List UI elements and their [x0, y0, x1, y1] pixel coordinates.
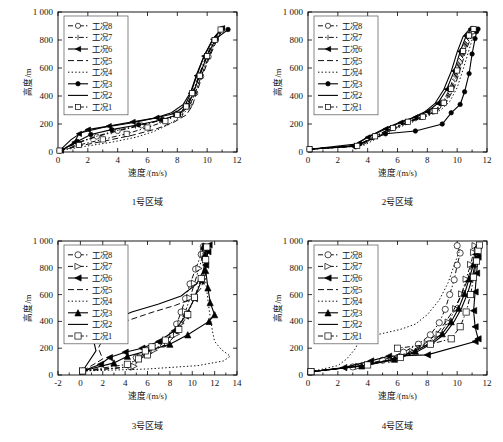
x-tick-label: 10 — [203, 155, 213, 165]
x-tick-label: 12 — [210, 378, 219, 388]
y-tick-label: 0 — [299, 370, 304, 380]
x-tick-label: 8 — [168, 378, 173, 388]
x-tick-label: 6 — [395, 155, 400, 165]
panel-2: 02468101202004006008001 000速度/(m/s)高度/m工… — [252, 0, 503, 215]
chart-svg: 02468101202004006008001 000速度/(m/s)高度/m工… — [252, 215, 503, 442]
x-tick-label: 0 — [78, 378, 83, 388]
y-tick-label: 800 — [40, 263, 54, 273]
legend-label[interactable]: 工况3 — [92, 309, 112, 318]
legend-label[interactable]: 工况3 — [342, 309, 362, 318]
legend-label[interactable]: 工况7 — [92, 262, 112, 271]
legend-label[interactable]: 工况5 — [92, 286, 112, 295]
y-tick-label: 200 — [40, 119, 54, 129]
legend-label[interactable]: 工况7 — [342, 33, 362, 42]
y-tick-label: 400 — [290, 316, 304, 326]
legend-label[interactable]: 工况6 — [342, 274, 362, 283]
x-tick-label: 0 — [306, 155, 311, 165]
panel-3: -20246810121402004006008001 000速度/(m/s)高… — [0, 215, 252, 442]
x-tick-label: 4 — [365, 155, 370, 165]
x-tick-label: 8 — [425, 378, 430, 388]
x-axis-title: 速度/(m/s) — [378, 167, 417, 178]
x-axis-title: 速度/(m/s) — [378, 390, 417, 401]
y-tick-label: 1 000 — [33, 236, 54, 246]
legend-label[interactable]: 工况8 — [342, 22, 362, 31]
y-tick-label: 200 — [40, 343, 54, 353]
legend-label[interactable]: 工况4 — [92, 297, 113, 306]
x-tick-label: 12 — [483, 155, 492, 165]
y-tick-label: 0 — [49, 147, 54, 157]
legend-label[interactable]: 工况2 — [92, 320, 112, 329]
legend-label[interactable]: 工况5 — [92, 57, 112, 66]
panel-subtitle: 3号区域 — [132, 420, 164, 431]
legend-label[interactable]: 工况3 — [342, 80, 362, 89]
x-tick-label: 2 — [336, 378, 341, 388]
y-tick-label: 400 — [290, 91, 304, 101]
x-tick-label: 4 — [365, 378, 370, 388]
legend-label[interactable]: 工况4 — [342, 68, 363, 77]
legend-label[interactable]: 工况8 — [92, 22, 112, 31]
y-tick-label: 600 — [40, 63, 54, 73]
panel-subtitle: 4号区域 — [382, 420, 414, 431]
x-tick-label: -2 — [54, 378, 62, 388]
y-tick-label: 400 — [40, 91, 54, 101]
x-tick-label: 6 — [395, 378, 400, 388]
legend-label[interactable]: 工况4 — [342, 297, 363, 306]
legend-label[interactable]: 工况3 — [92, 80, 112, 89]
y-tick-label: 1 000 — [283, 236, 304, 246]
x-tick-label: 12 — [483, 378, 492, 388]
legend-label[interactable]: 工况4 — [92, 68, 113, 77]
x-tick-label: 2 — [101, 378, 106, 388]
x-tick-label: 0 — [306, 378, 311, 388]
legend-label[interactable]: 工况2 — [92, 91, 112, 100]
chart-svg: 02468101202004006008001 000速度/(m/s)高度/m工… — [252, 0, 503, 215]
chart-1-area: 02468101202004006008001 000速度/(m/s)高度/m工… — [0, 0, 252, 215]
panel-1: 02468101202004006008001 000速度/(m/s)高度/m工… — [0, 0, 252, 215]
figure-grid: 02468101202004006008001 000速度/(m/s)高度/m工… — [0, 0, 503, 442]
chart-4-area: 02468101202004006008001 000速度/(m/s)高度/m工… — [252, 215, 503, 442]
legend-label[interactable]: 工况1 — [92, 103, 112, 112]
legend-label[interactable]: 工况6 — [92, 45, 112, 54]
x-tick-label: 6 — [145, 155, 150, 165]
legend-label[interactable]: 工况7 — [342, 262, 362, 271]
x-tick-label: 10 — [453, 155, 463, 165]
panel-subtitle: 1号区域 — [132, 196, 164, 207]
legend-label[interactable]: 工况6 — [342, 45, 362, 54]
y-axis-title: 高度/m — [22, 68, 33, 95]
legend-label[interactable]: 工况8 — [342, 251, 362, 260]
legend-label[interactable]: 工况7 — [92, 33, 112, 42]
chart-svg: -20246810121402004006008001 000速度/(m/s)高… — [0, 215, 252, 442]
y-axis-title: 高度/m — [22, 294, 33, 321]
x-tick-label: 10 — [453, 378, 463, 388]
legend-label[interactable]: 工况1 — [342, 332, 362, 341]
y-tick-label: 800 — [290, 263, 304, 273]
legend-label[interactable]: 工况1 — [92, 332, 112, 341]
y-tick-label: 200 — [290, 343, 304, 353]
panel-subtitle: 2号区域 — [382, 196, 414, 207]
chart-3-area: -20246810121402004006008001 000速度/(m/s)高… — [0, 215, 252, 442]
x-tick-label: 0 — [56, 155, 61, 165]
x-tick-label: 2 — [336, 155, 341, 165]
x-tick-label: 6 — [145, 378, 150, 388]
legend-label[interactable]: 工况2 — [342, 91, 362, 100]
y-tick-label: 800 — [290, 35, 304, 45]
y-tick-label: 0 — [49, 370, 54, 380]
legend-label[interactable]: 工况2 — [342, 320, 362, 329]
x-axis-title: 速度/(m/s) — [128, 167, 167, 178]
y-tick-label: 1 000 — [283, 7, 304, 17]
chart-svg: 02468101202004006008001 000速度/(m/s)高度/m工… — [0, 0, 252, 215]
y-tick-label: 0 — [299, 147, 304, 157]
y-tick-label: 600 — [290, 63, 304, 73]
legend-label[interactable]: 工况5 — [342, 286, 362, 295]
x-tick-label: 8 — [425, 155, 430, 165]
y-tick-label: 600 — [290, 290, 304, 300]
y-tick-label: 1 000 — [33, 7, 54, 17]
chart-2-area: 02468101202004006008001 000速度/(m/s)高度/m工… — [252, 0, 503, 215]
x-tick-label: 14 — [233, 378, 243, 388]
legend-label[interactable]: 工况1 — [342, 103, 362, 112]
legend-label[interactable]: 工况8 — [92, 251, 112, 260]
legend-label[interactable]: 工况6 — [92, 274, 112, 283]
legend-label[interactable]: 工况5 — [342, 57, 362, 66]
y-axis-title: 高度/m — [272, 68, 283, 95]
panel-4: 02468101202004006008001 000速度/(m/s)高度/m工… — [252, 215, 503, 442]
x-axis-title: 速度/(m/s) — [128, 390, 167, 401]
